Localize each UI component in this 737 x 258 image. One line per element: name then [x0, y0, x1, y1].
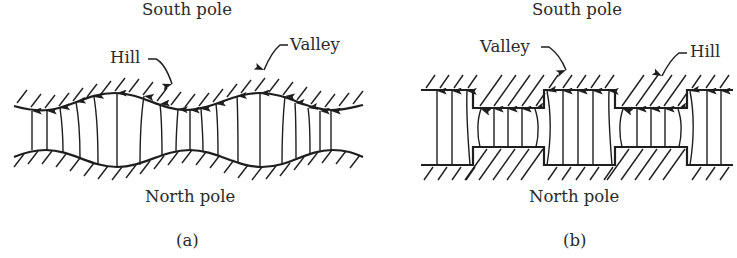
panel-b-south-pole-surface: [421, 90, 733, 108]
magnetic-pole-surface-diagram: South pole Hill Valley North pole (a) So…: [0, 0, 737, 258]
panel-a-south-pole-hatching: [17, 78, 363, 108]
panel-a-valley-label: Valley: [290, 37, 340, 54]
panel-b-valley-label: Valley: [480, 39, 530, 56]
panel-a-south-pole-label: South pole: [142, 2, 232, 19]
panel-b-field-lines: [437, 91, 721, 165]
panel-a-annotation-arrows: [148, 45, 288, 84]
panel-b: [421, 47, 733, 180]
panel-b-hill-label: Hill: [690, 44, 720, 61]
panel-b-annotation-arrows: [541, 47, 687, 76]
hill-pointer-a: [148, 59, 172, 84]
panel-a-north-pole-label: North pole: [145, 189, 235, 206]
valley-pointer-b: [541, 47, 566, 70]
panel-a-hill-label: Hill: [110, 50, 140, 67]
panel-a-caption: (a): [176, 233, 199, 250]
panel-a: [14, 45, 363, 180]
panel-b-north-pole-surface: [421, 147, 733, 165]
diagram-drawing: [0, 0, 737, 258]
panel-b-south-pole-label: South pole: [532, 2, 622, 19]
panel-b-north-pole-label: North pole: [529, 189, 619, 206]
valley-pointer-a: [264, 45, 288, 70]
panel-b-caption: (b): [563, 233, 586, 250]
hill-pointer-b: [662, 53, 687, 76]
